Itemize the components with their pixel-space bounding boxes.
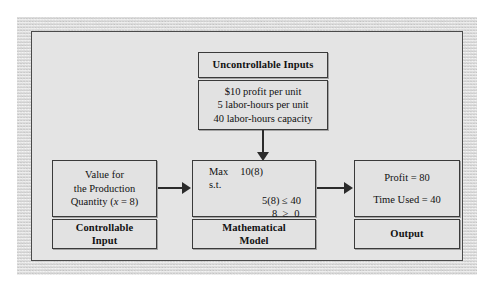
arrow-input-to-model-head-icon	[182, 182, 191, 194]
arrow-inputs-to-model-shaft	[262, 130, 264, 153]
controllable-input-value-box: Value for the Production Quantity (x = 8…	[52, 160, 157, 217]
model-objective-row: Max 10(8)	[201, 165, 307, 178]
controllable-input-line-1: Value for	[85, 168, 124, 181]
uncontrollable-input-line-2: 5 labor-hours per unit	[217, 98, 308, 111]
output-line-1: Profit = 80	[384, 171, 430, 184]
uncontrollable-inputs-values-box: $10 profit per unit 5 labor-hours per un…	[198, 80, 328, 130]
output-caption-box: Output	[354, 219, 460, 249]
model-objective-keyword: Max	[209, 165, 228, 178]
controllable-input-quantity-line: Quantity (x = 8)	[71, 195, 138, 208]
uncontrollable-input-line-1: $10 profit per unit	[225, 85, 302, 98]
controllable-input-caption-box: Controllable Input	[52, 219, 157, 249]
controllable-input-caption-line-2: Input	[92, 234, 118, 247]
uncontrollable-inputs-title-box: Uncontrollable Inputs	[198, 52, 328, 78]
mathematical-model-caption-line-2: Model	[239, 234, 268, 247]
quantity-prefix-text: Quantity (	[71, 196, 114, 207]
figure-outer-frame: Uncontrollable Inputs $10 profit per uni…	[17, 17, 477, 275]
arrow-model-to-output-shaft	[317, 187, 345, 189]
arrow-model-to-output-head-icon	[344, 182, 353, 194]
output-values-box: Profit = 80 Time Used = 40	[354, 160, 460, 217]
mathematical-model-caption-box: Mathematical Model	[192, 219, 316, 249]
mathematical-model-caption-line-1: Mathematical	[222, 221, 286, 234]
mathematical-model-box: Max 10(8) s.t. 5(8) ≤ 40 8 ≥ 0	[192, 160, 316, 217]
model-constraint-1: 5(8) ≤ 40	[201, 194, 307, 207]
output-caption-text: Output	[390, 227, 423, 240]
uncontrollable-input-line-3: 40 labor-hours capacity	[214, 112, 313, 125]
controllable-input-caption-line-1: Controllable	[76, 221, 134, 234]
model-subject-to-text: s.t.	[201, 178, 307, 191]
model-objective-expression: 10(8)	[240, 165, 263, 178]
arrow-input-to-model-shaft	[158, 187, 183, 189]
quantity-suffix-text: = 8)	[118, 196, 138, 207]
controllable-input-line-2: the Production	[74, 182, 136, 195]
diagram-panel: Uncontrollable Inputs $10 profit per uni…	[31, 31, 463, 261]
output-line-2: Time Used = 40	[373, 193, 441, 206]
uncontrollable-inputs-title-text: Uncontrollable Inputs	[213, 58, 314, 71]
